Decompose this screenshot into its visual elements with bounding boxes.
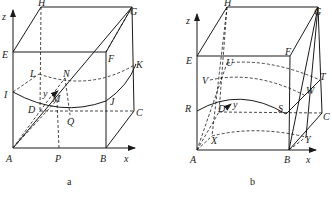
- line-ST: [286, 80, 320, 114]
- label-G: G: [130, 6, 137, 17]
- label-x: x: [305, 154, 311, 165]
- caption-a: a: [67, 176, 72, 187]
- label-D: D: [27, 104, 36, 115]
- label-y: y: [232, 99, 238, 110]
- label-Q: Q: [67, 116, 75, 127]
- label-W: W: [306, 85, 316, 96]
- line-GB: [289, 7, 318, 150]
- hidden-edge-AD: [13, 111, 40, 148]
- hidden-HX: [212, 7, 227, 136]
- hidden-curve-LK: [39, 64, 136, 81]
- edge-FB: [289, 56, 290, 150]
- y-axis: [226, 104, 231, 108]
- label-S: S: [278, 103, 283, 114]
- label-I: I: [3, 89, 8, 100]
- caption-b: b: [250, 176, 255, 187]
- label-H: H: [223, 0, 232, 8]
- label-F: F: [107, 53, 115, 64]
- figure-a: z H G E F K L N I y M D J C Q A P B x a: [1, 0, 144, 187]
- line-GY: [306, 7, 318, 137]
- label-x: x: [123, 153, 129, 164]
- label-C: C: [136, 107, 143, 118]
- hidden-edge-HD: [40, 7, 41, 111]
- label-N: N: [62, 68, 71, 79]
- label-M: M: [51, 93, 61, 104]
- label-R: R: [184, 103, 191, 114]
- label-A: A: [189, 154, 197, 165]
- label-K: K: [135, 59, 144, 70]
- label-D: D: [217, 103, 226, 114]
- label-H: H: [37, 0, 46, 8]
- label-G: G: [314, 6, 321, 17]
- edge-GC: [318, 7, 322, 113]
- label-J: J: [110, 96, 115, 107]
- label-T: T: [320, 71, 327, 82]
- label-Y: Y: [305, 134, 312, 145]
- label-X: X: [210, 135, 218, 146]
- label-P: P: [54, 153, 61, 164]
- label-B: B: [100, 153, 106, 164]
- top-face: [13, 7, 132, 52]
- edge-GC: [132, 7, 134, 111]
- label-z: z: [1, 11, 6, 22]
- figure-b: z H G E F U V T W R S D y C X Y A B x b: [184, 0, 330, 187]
- top-face: [197, 7, 318, 56]
- label-y: y: [42, 88, 48, 99]
- label-L: L: [29, 68, 36, 79]
- label-B: B: [284, 154, 290, 165]
- label-U: U: [226, 57, 234, 68]
- edge-BC: [106, 111, 134, 148]
- label-V: V: [202, 75, 210, 86]
- figure-canvas: z H G E F K L N I y M D J C Q A P B x a: [0, 0, 332, 203]
- label-C: C: [323, 111, 330, 122]
- label-E: E: [185, 55, 192, 66]
- hidden-DC: [219, 112, 322, 113]
- label-F: F: [284, 46, 292, 57]
- label-z: z: [185, 15, 190, 26]
- label-E: E: [1, 49, 8, 60]
- label-A: A: [5, 153, 13, 164]
